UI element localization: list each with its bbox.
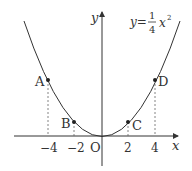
point-a	[46, 78, 50, 82]
equation-exponent: 2	[167, 14, 171, 22]
equation-label: y= 1 4 x 2	[129, 10, 171, 35]
label-b: B	[61, 116, 71, 131]
point-b	[72, 120, 76, 124]
equation-variable: x	[159, 16, 166, 30]
x-axis-label: x	[172, 138, 180, 153]
y-axis-label: y	[90, 10, 99, 25]
equation-denominator: 4	[149, 24, 155, 35]
tick-2: 2	[124, 141, 132, 155]
point-c	[126, 120, 130, 124]
label-d: D	[158, 74, 168, 89]
label-a: A	[34, 74, 45, 89]
label-c: C	[132, 118, 142, 133]
tick-4: 4	[151, 141, 159, 155]
point-d	[153, 78, 157, 82]
origin-label: O	[90, 140, 101, 155]
tick-neg4: −4	[40, 141, 58, 155]
equation-numerator: 1	[149, 10, 155, 21]
tick-neg2: −2	[67, 141, 85, 155]
parabola-diagram: A B C D y x O −4 −2 2 4 y= 1 4 x 2	[0, 0, 192, 171]
equation-prefix: y=	[129, 15, 147, 29]
